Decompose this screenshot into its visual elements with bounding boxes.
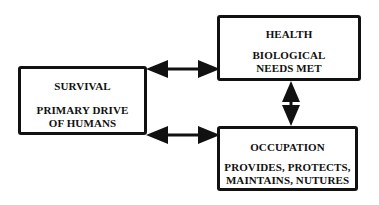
arrow-health-occupation <box>282 81 300 126</box>
node-survival: SURVIVAL PRIMARY DRIVE OF HUMANS <box>18 66 147 135</box>
node-description: PRIMARY DRIVE OF HUMANS <box>21 104 144 130</box>
node-occupation: OCCUPATION PROVIDES, PROTECTS, MAINTAINS… <box>217 126 358 191</box>
node-title: HEALTH <box>220 28 358 41</box>
arrow-survival-health <box>146 60 220 78</box>
node-description: BIOLOGICAL NEEDS MET <box>220 49 358 75</box>
node-title: OCCUPATION <box>220 141 355 154</box>
node-health: HEALTH BIOLOGICAL NEEDS MET <box>217 15 361 81</box>
node-description: PROVIDES, PROTECTS, MAINTAINS, NUTURES <box>220 161 355 187</box>
arrow-survival-occupation <box>146 126 220 144</box>
node-title: SURVIVAL <box>21 80 144 93</box>
